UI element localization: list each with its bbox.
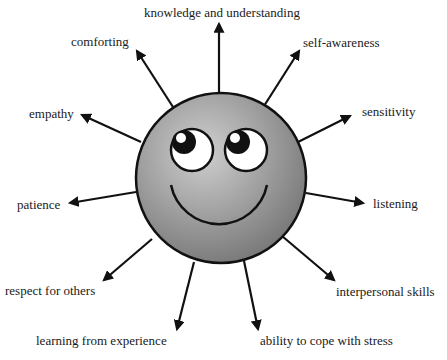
label-interpersonal: interpersonal skills (336, 284, 435, 299)
label-comforting: comforting (71, 34, 129, 49)
label-knowledge: knowledge and understanding (144, 5, 300, 20)
smiley-face (136, 93, 306, 263)
label-cope-stress: ability to cope with stress (260, 333, 393, 348)
arrow-cope-stress (244, 261, 258, 329)
arrow-interpersonal (282, 236, 334, 280)
label-empathy: empathy (29, 106, 74, 121)
arrow-learning (177, 262, 194, 329)
arrow-empathy (82, 115, 141, 142)
label-listening: listening (373, 196, 418, 211)
arrow-listening (306, 193, 363, 203)
label-self-awareness: self-awareness (303, 35, 380, 50)
label-sensitivity: sensitivity (362, 104, 416, 119)
face-circle (136, 93, 306, 263)
arrow-sensitivity (296, 116, 350, 143)
label-learning: learning from experience (36, 333, 167, 348)
label-respect: respect for others (5, 283, 95, 298)
arrow-respect (104, 239, 152, 280)
arrow-patience (70, 192, 136, 203)
qualities-diagram: knowledge and understanding self-awarene… (0, 0, 447, 360)
arrow-comforting (137, 51, 173, 107)
left-eye-icon (171, 129, 213, 171)
arrow-self-awareness (264, 51, 299, 106)
right-eye-icon (225, 129, 267, 171)
label-patience: patience (17, 197, 61, 212)
